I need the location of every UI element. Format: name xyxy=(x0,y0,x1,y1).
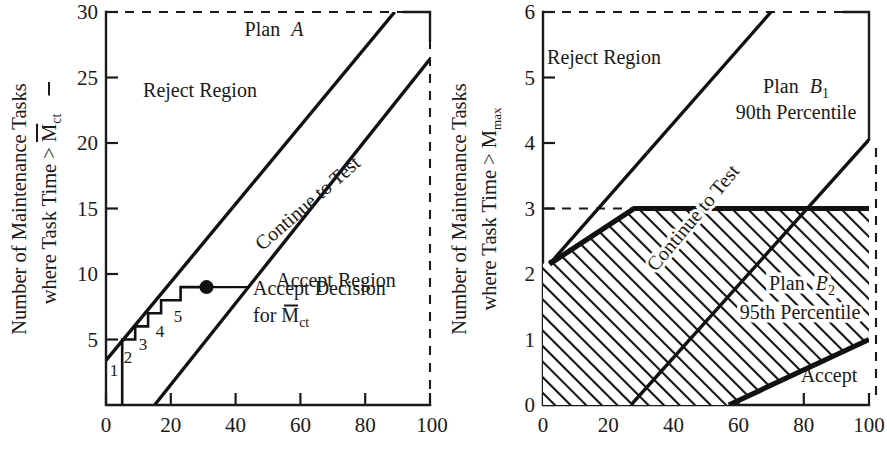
left-xtick-60: 60 xyxy=(290,413,311,437)
right-xtick-20: 20 xyxy=(598,413,619,437)
right-plan-b1-word: Plan xyxy=(763,75,799,97)
left-accept-symbol: M xyxy=(281,304,299,326)
panel-plan-a: 30 25 20 15 10 5 0 20 40 60 80 100 Numbe… xyxy=(0,0,444,450)
panel-plan-b: 6 5 4 3 2 1 0 0 20 40 60 80 100 Number o… xyxy=(444,0,887,450)
right-yaxis-title-sub: max xyxy=(489,107,504,130)
right-ytick-6: 6 xyxy=(525,0,536,24)
left-step-number-2: 2 xyxy=(124,348,133,367)
right-yaxis-title: Number of Maintenance Tasks xyxy=(448,83,470,335)
right-yaxis-title-pre: where Task Time > xyxy=(478,148,500,310)
left-xtick-80: 80 xyxy=(355,413,376,437)
right-ytick-1: 1 xyxy=(525,328,536,352)
left-y-ticks xyxy=(106,12,118,340)
right-reject-region-label: Reject Region xyxy=(547,46,661,69)
left-ytick-15: 15 xyxy=(77,197,98,221)
left-ytick-10: 10 xyxy=(77,262,98,286)
left-xtick-40: 40 xyxy=(225,413,246,437)
left-yaxis-title-pre: where Task Time > xyxy=(38,142,60,304)
left-upper-decision-line xyxy=(106,12,395,360)
svg-text:where Task Time > Mmax: where Task Time > Mmax xyxy=(478,107,504,310)
right-plan-b1-sub: 1 xyxy=(822,86,829,101)
two-panel-sequential-test-figure: 30 25 20 15 10 5 0 20 40 60 80 100 Numbe… xyxy=(0,0,887,450)
plan-b-plot: 6 5 4 3 2 1 0 0 20 40 60 80 100 Number o… xyxy=(444,0,887,450)
left-yaxis-title: Number of Maintenance Tasks xyxy=(8,83,30,335)
left-plan-a-letter: A xyxy=(289,18,304,40)
right-plan-b2-letter: B xyxy=(816,272,828,294)
left-step-number-1: 1 xyxy=(110,361,119,380)
left-reject-region-label: Reject Region xyxy=(143,79,257,102)
left-step-number-5: 5 xyxy=(174,307,183,326)
left-accept-decision-label: Accept Decision xyxy=(253,277,386,300)
left-xtick-20: 20 xyxy=(160,413,181,437)
left-accept-sub: ct xyxy=(299,315,309,330)
right-ytick-5: 5 xyxy=(525,66,536,90)
left-step-number-3: 3 xyxy=(139,335,148,354)
right-xtick-40: 40 xyxy=(663,413,684,437)
left-yaxis-title-line2: where Task Time > Mct xyxy=(38,114,64,305)
right-plan-b1-letter: B xyxy=(810,75,822,97)
right-plan-b2-sub: 2 xyxy=(828,283,835,298)
left-step-number-4: 4 xyxy=(156,322,165,341)
left-ytick-30: 30 xyxy=(77,0,98,24)
right-yaxis-title-symbol: M xyxy=(478,130,500,148)
left-accept-decision-for-label: for Mct xyxy=(253,304,309,330)
svg-text:where Task Time > Mct: where Task Time > Mct xyxy=(38,114,64,305)
left-yaxis-title-sub: ct xyxy=(49,114,64,124)
left-plan-a-word: Plan xyxy=(245,18,281,40)
right-yaxis-title-line1: Number of Maintenance Tasks xyxy=(448,83,470,335)
right-ytick-2: 2 xyxy=(525,262,536,286)
right-ytick-0: 0 xyxy=(525,393,536,417)
right-xtick-0: 0 xyxy=(538,413,549,437)
left-axis-frame xyxy=(106,12,430,405)
left-yaxis-title-symbol: M xyxy=(38,124,60,142)
left-xtick-0: 0 xyxy=(101,413,112,437)
plan-a-plot: 30 25 20 15 10 5 0 20 40 60 80 100 Numbe… xyxy=(0,0,444,450)
left-lower-decision-line xyxy=(155,59,430,405)
right-yaxis-title-line2: where Task Time > Mmax xyxy=(478,107,504,310)
left-ytick-20: 20 xyxy=(77,131,98,155)
left-accept-decision-dot xyxy=(200,280,214,294)
right-xtick-80: 80 xyxy=(793,413,814,437)
left-plan-a-label: Plan A xyxy=(245,18,305,40)
right-xtick-100: 100 xyxy=(853,413,885,437)
right-percentile-90-label: 90th Percentile xyxy=(736,101,857,123)
left-staircase-path xyxy=(122,287,206,405)
right-plan-b1-label: Plan B1 xyxy=(763,75,829,101)
left-yaxis-title-line1: Number of Maintenance Tasks xyxy=(8,83,30,335)
right-accept-label: Accept xyxy=(801,364,858,387)
right-xtick-60: 60 xyxy=(728,413,749,437)
right-ytick-4: 4 xyxy=(525,131,536,155)
right-percentile-95-label: 95th Percentile xyxy=(740,301,861,323)
left-top-right-corner xyxy=(404,12,430,40)
left-ytick-25: 25 xyxy=(77,66,98,90)
left-ytick-5: 5 xyxy=(88,328,99,352)
left-accept-for-word: for xyxy=(253,304,281,326)
right-plan-b2-word: Plan xyxy=(769,272,805,294)
right-ytick-3: 3 xyxy=(525,197,536,221)
